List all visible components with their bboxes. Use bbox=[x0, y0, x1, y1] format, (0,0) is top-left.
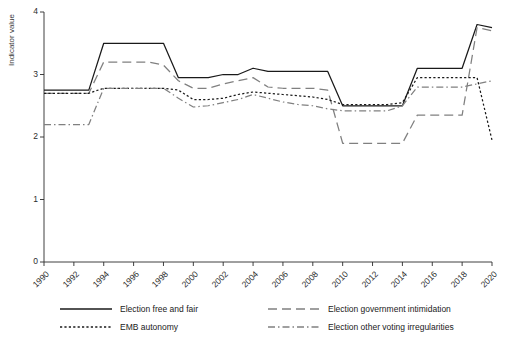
y-tick-label: 0 bbox=[26, 256, 38, 266]
y-tick-label: 4 bbox=[26, 6, 38, 16]
legend-item-election-free-and-fair: Election free and fair bbox=[60, 300, 268, 318]
legend-row-1: Election free and fair Election governme… bbox=[60, 300, 480, 318]
series-line-1 bbox=[44, 28, 492, 144]
legend-label-election-other-voting-irregularities: Election other voting irregularities bbox=[328, 322, 454, 332]
legend-item-election-government-intimidation: Election government intimidation bbox=[268, 300, 480, 318]
legend-swatch-dotted bbox=[60, 322, 112, 332]
legend-swatch-dashed bbox=[268, 304, 320, 314]
legend-swatch-dash-dot bbox=[268, 322, 320, 332]
legend-row-2: EMB autonomy Election other voting irreg… bbox=[60, 318, 480, 336]
y-tick-label: 1 bbox=[26, 194, 38, 204]
legend-item-emb-autonomy: EMB autonomy bbox=[60, 318, 268, 336]
legend-item-election-other-voting-irregularities: Election other voting irregularities bbox=[268, 318, 480, 336]
legend-label-emb-autonomy: EMB autonomy bbox=[120, 322, 178, 332]
legend-label-election-free-and-fair: Election free and fair bbox=[120, 304, 198, 314]
legend-swatch-solid bbox=[60, 304, 112, 314]
series-line-0 bbox=[44, 25, 492, 106]
chart-container: Indicator value Election free and fair E… bbox=[0, 0, 506, 354]
legend-label-election-government-intimidation: Election government intimidation bbox=[328, 304, 451, 314]
y-tick-label: 3 bbox=[26, 69, 38, 79]
y-tick-label: 2 bbox=[26, 131, 38, 141]
chart-legend: Election free and fair Election governme… bbox=[60, 300, 480, 336]
